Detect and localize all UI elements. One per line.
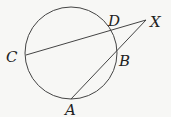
label-b: B <box>118 52 130 70</box>
label-c: C <box>6 48 18 66</box>
label-x: X <box>149 13 162 31</box>
diagram-canvas: C D X B A <box>0 0 171 117</box>
circle <box>25 7 117 99</box>
label-d: D <box>107 12 120 30</box>
label-a: A <box>63 101 76 117</box>
geometry-diagram: C D X B A <box>0 0 171 117</box>
secant-cx <box>26 20 146 55</box>
secant-ax <box>71 20 146 99</box>
